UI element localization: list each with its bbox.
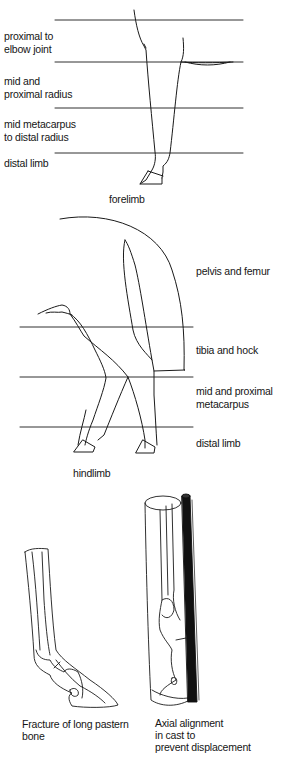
forelimb-zone-label: mid metacarpus to distal radius xyxy=(4,118,76,144)
forelimb-zone-label: mid and proximal radius xyxy=(4,75,72,101)
hindlimb-caption: hindlimb xyxy=(73,467,111,479)
hindlimb-zone-label: tibia and hock xyxy=(196,344,258,357)
cast-alignment-drawing xyxy=(145,494,199,705)
splint-rod xyxy=(182,496,197,702)
hindlimb-zone-label: mid and proximal metacarpus xyxy=(196,385,273,411)
hindlimb-drawing xyxy=(38,217,185,453)
forelimb-zone-label: distal limb xyxy=(4,157,48,170)
hindlimb-zone-lines xyxy=(20,327,193,427)
fracture-caption: Fracture of long pastern bone xyxy=(22,718,129,742)
hindlimb-zone-label: distal limb xyxy=(196,437,240,450)
forelimb-drawing xyxy=(134,10,233,184)
cast-caption: Axial alignment in cast to prevent displ… xyxy=(155,717,251,753)
hindlimb-zone-label: pelvis and femur xyxy=(196,265,270,278)
forelimb-zone-label: proximal to elbow joint xyxy=(4,30,53,56)
fracture-of-pastern-drawing xyxy=(25,548,118,707)
forelimb-caption: forelimb xyxy=(109,193,145,205)
limb-illustrations xyxy=(0,0,287,765)
